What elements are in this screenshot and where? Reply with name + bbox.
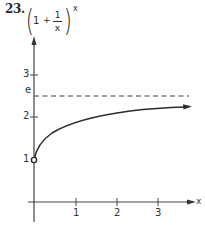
asymptote-e-label: e <box>25 84 31 95</box>
curve-arrow-icon <box>183 104 192 109</box>
open-point-marker <box>31 157 36 162</box>
x-tick-label-2: 2 <box>114 207 120 218</box>
function-curve <box>34 107 186 160</box>
y-tick-label-1: 1 <box>23 153 29 164</box>
x-tick-label-3: 3 <box>155 207 161 218</box>
y-tick-label-3: 3 <box>23 68 29 79</box>
x-tick-label-1: 1 <box>73 207 79 218</box>
y-axis-arrow-icon <box>32 36 37 45</box>
x-axis-arrow-icon <box>187 200 196 205</box>
x-axis-label: x <box>196 196 201 206</box>
plot-area <box>0 0 205 225</box>
y-tick-label-2: 2 <box>23 110 29 121</box>
